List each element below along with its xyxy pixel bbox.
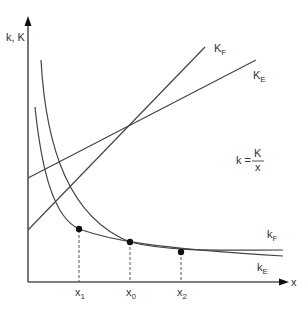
x-axis-label: x — [291, 276, 297, 288]
label-KF: KF — [214, 42, 226, 57]
formula-numerator: K — [254, 147, 262, 159]
point-x2 — [178, 249, 184, 255]
curve-kE — [35, 107, 283, 256]
formula: k = K x — [236, 147, 264, 173]
line-KE — [28, 60, 256, 178]
diagram-canvas: k, K x KF KE k = K x kF kE x1 x0 x2 — [0, 0, 307, 309]
formula-denominator: x — [255, 161, 261, 173]
tick-label-x0: x0 — [126, 286, 137, 301]
tick-label-x1: x1 — [75, 286, 86, 301]
x-axis-arrow-icon — [279, 279, 289, 286]
formula-lhs: k = — [236, 154, 251, 166]
line-KF — [28, 47, 205, 230]
label-KE: KE — [253, 69, 266, 84]
tick-label-x2: x2 — [177, 286, 188, 301]
label-kE: kE — [257, 261, 268, 276]
y-axis-arrow-icon — [25, 16, 32, 26]
label-kF: kF — [267, 228, 278, 243]
point-x1 — [76, 226, 82, 232]
y-axis-label: k, K — [6, 31, 26, 43]
point-x0 — [127, 239, 133, 245]
